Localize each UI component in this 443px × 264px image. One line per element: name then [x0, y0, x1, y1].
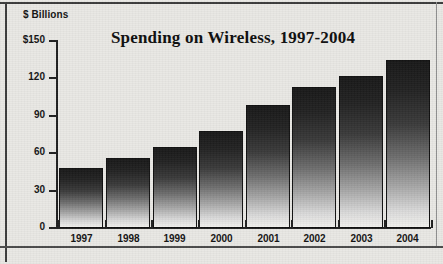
x-axis-tick-label-1997: 1997	[58, 233, 105, 244]
y-axis-line	[56, 40, 58, 229]
x-axis-tick-mark	[291, 220, 293, 228]
x-axis-tick-label-2002: 2002	[291, 233, 338, 244]
x-axis-tick-label-2000: 2000	[198, 233, 245, 244]
y-axis-tick-label: 90	[3, 109, 45, 120]
x-axis-tick-label-2004: 2004	[384, 233, 431, 244]
x-axis-tick-mark	[384, 220, 386, 228]
x-axis-tick-label-2001: 2001	[245, 233, 292, 244]
y-axis-tick-mark	[49, 40, 57, 42]
x-axis-tick-mark	[431, 220, 433, 228]
x-axis-tick-mark	[105, 220, 107, 228]
y-axis-unit-label: $ Billions	[23, 9, 68, 20]
x-axis-tick-label-2003: 2003	[338, 233, 385, 244]
y-axis-tick-mark	[49, 115, 57, 117]
y-axis-tick-label: 0	[3, 221, 45, 232]
bar-1999	[153, 147, 197, 228]
x-axis-tick-mark	[245, 220, 247, 228]
y-axis-tick-mark	[49, 227, 57, 229]
chart-figure: $ Billions Spending on Wireless, 1997-20…	[0, 0, 443, 264]
x-axis-tick-label-1999: 1999	[151, 233, 198, 244]
chart-title: Spending on Wireless, 1997-2004	[78, 28, 388, 48]
x-axis-tick-mark	[151, 220, 153, 228]
y-axis-tick-mark	[49, 190, 57, 192]
bar-2001	[246, 105, 290, 228]
y-axis-tick-mark	[49, 77, 57, 79]
bar-2000	[199, 131, 243, 228]
bar-2002	[292, 87, 336, 228]
y-axis-tick-mark	[49, 152, 57, 154]
bar-1998	[106, 158, 150, 228]
x-axis-tick-mark	[58, 220, 60, 228]
y-axis-tick-label: $150	[3, 34, 45, 45]
x-axis-tick-mark	[338, 220, 340, 228]
y-axis-tick-label: 30	[3, 184, 45, 195]
y-axis-tick-label: 120	[3, 71, 45, 82]
x-axis-tick-label-1998: 1998	[105, 233, 152, 244]
bar-2003	[339, 76, 383, 228]
bar-2004	[386, 60, 430, 228]
bar-1997	[59, 168, 103, 228]
x-axis-tick-mark	[198, 220, 200, 228]
y-axis-tick-label: 60	[3, 146, 45, 157]
